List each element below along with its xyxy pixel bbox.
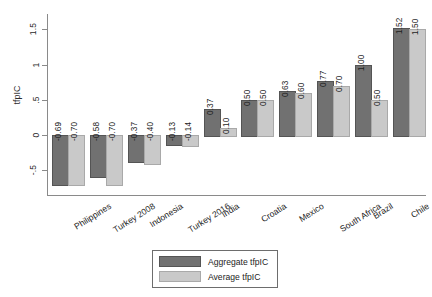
bar-value-label: -0.40: [146, 122, 155, 141]
legend-label-aggregate: Aggregate tfpIC: [208, 257, 268, 267]
y-axis-tick-label: .5: [30, 96, 40, 104]
bar-group: 0.770.70: [317, 14, 348, 195]
bar-aggregate: [355, 65, 372, 137]
bar-value-label: 0.37: [206, 99, 215, 115]
legend-item-average: Average tfpIC: [159, 271, 268, 282]
bar-value-label: -0.13: [168, 122, 177, 141]
bar-value-label: 0.50: [243, 90, 252, 106]
bar-value-label: 1.00: [357, 54, 366, 70]
x-axis-label: Philippines: [72, 201, 113, 232]
bar-value-label: -0.70: [108, 122, 117, 141]
legend-label-average: Average tfpIC: [208, 272, 260, 282]
bar-value-label: 0.10: [222, 118, 231, 134]
x-axis-label: Mexico: [297, 201, 325, 224]
bar-aggregate: [90, 135, 107, 178]
bar-aggregate: [279, 91, 296, 137]
x-axis-label: Croatia: [259, 201, 288, 224]
bar-value-label: 0.50: [259, 90, 268, 106]
x-axis-line: [47, 195, 426, 196]
bar-average: [409, 29, 426, 137]
bar-value-label: 0.70: [335, 75, 344, 91]
bar-average: [68, 135, 85, 186]
y-axis-title: tfpIC: [12, 85, 22, 104]
bar-group: 0.370.10: [204, 14, 235, 195]
bar-chart: tfpIC 1.51.50-.5 -0.69-0.70-0.58-0.70-0.…: [0, 0, 432, 297]
bar-group: -0.37-0.40: [128, 14, 159, 195]
legend-swatch-aggregate: [159, 256, 201, 267]
bar-value-label: -0.70: [70, 122, 79, 141]
x-axis-label: Chile: [409, 201, 431, 220]
y-axis-tick-label: -.5: [29, 165, 39, 176]
bar-group: -0.13-0.14: [166, 14, 197, 195]
bar-average: [333, 86, 350, 137]
bar-group: 0.630.60: [279, 14, 310, 195]
y-axis-tick-label: 1: [32, 62, 42, 67]
x-axis-label: Turkey 2008: [111, 201, 157, 235]
chart-legend: Aggregate tfpIC Average tfpIC: [152, 250, 278, 288]
bar-value-label: 1.50: [411, 19, 420, 35]
bar-value-label: 1.52: [395, 18, 404, 34]
bar-value-label: 0.63: [281, 80, 290, 96]
bar-average: [295, 93, 312, 137]
bar-value-label: 0.50: [373, 90, 382, 106]
y-axis-tick-label: 1.5: [28, 23, 38, 35]
bar-group: -0.69-0.70: [52, 14, 83, 195]
bar-aggregate: [317, 81, 334, 137]
plot-area: -0.69-0.70-0.58-0.70-0.37-0.40-0.13-0.14…: [47, 14, 425, 195]
bar-value-label: 0.77: [319, 71, 328, 87]
y-axis-tick-label: 0: [32, 133, 42, 138]
bar-value-label: -0.58: [92, 122, 101, 141]
bar-group: -0.58-0.70: [90, 14, 121, 195]
bar-value-label: -0.14: [184, 122, 193, 141]
bar-aggregate: [393, 28, 410, 137]
legend-item-aggregate: Aggregate tfpIC: [159, 256, 268, 267]
bar-average: [106, 135, 123, 186]
bar-value-label: -0.37: [130, 122, 139, 141]
bar-value-label: -0.69: [54, 122, 63, 141]
bar-group: 1.521.50: [393, 14, 424, 195]
bar-aggregate: [52, 135, 69, 186]
bar-group: 0.500.50: [241, 14, 272, 195]
legend-swatch-average: [159, 271, 201, 282]
bar-value-label: 0.60: [297, 83, 306, 99]
bar-group: 1.000.50: [355, 14, 386, 195]
